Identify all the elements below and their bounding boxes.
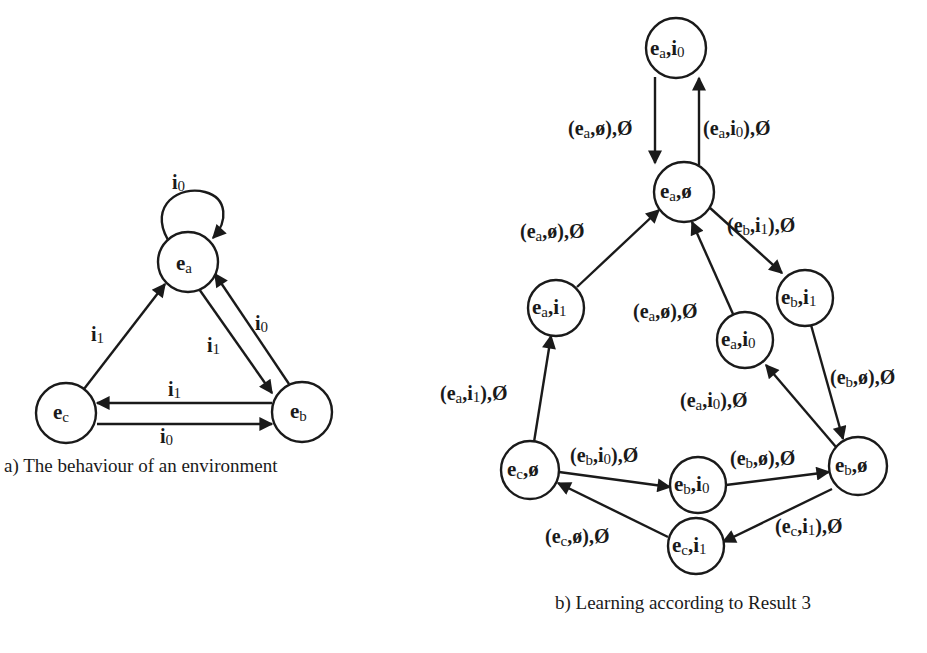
node-ec-i1: ec,i1: [668, 518, 724, 574]
edge-label-12: (ec,ø),Ø: [545, 525, 609, 549]
edge-ecempty-to-ebi0: [559, 472, 670, 487]
edge-eai1-to-eaempty: [577, 210, 659, 287]
edge-ecempty-to-eai1: [534, 336, 551, 442]
edge-label-1: (ea,ø),Ø: [568, 117, 632, 141]
edge-label-10: (eb,ø),Ø: [730, 447, 795, 471]
node-ea-empty: ea,ø: [654, 162, 714, 222]
node-ea-i1: ea,i1: [528, 280, 584, 336]
edge-label-eb-ec: i1: [168, 378, 181, 401]
edge-label-3: (ea,ø),Ø: [520, 220, 584, 244]
edge-label-ec-eb: i0: [160, 425, 173, 448]
edge-label-11: (ec,i1),Ø: [775, 515, 843, 539]
node-ec-empty: ec,ø: [501, 441, 559, 499]
edge-label-eb-ea: i0: [255, 312, 268, 335]
svg-text:eb,ø: eb,ø: [835, 453, 868, 478]
caption-a: a) The behaviour of an environment: [4, 455, 278, 477]
state-diagrams: i0 i1 i1 i0 i1 i0 ea eb ec a) The behavi…: [0, 0, 927, 653]
node-eb-empty: eb,ø: [829, 437, 887, 495]
svg-text:ea,ø: ea,ø: [660, 179, 692, 204]
edge-label-2: (ea,i0),Ø: [703, 117, 771, 141]
node-ec: ec: [36, 383, 96, 443]
edge-label-ea-self: i0: [172, 171, 185, 194]
edge-label-4: (eb,i1),Ø: [727, 214, 795, 238]
edge-label-ea-eb: i1: [207, 334, 220, 357]
edge-label-7: (ea,i0),Ø: [680, 389, 748, 413]
node-eb: eb: [272, 382, 332, 442]
diagram-b-learning: (ea,ø),Ø (ea,i0),Ø (ea,ø),Ø (eb,i1),Ø (e…: [440, 18, 895, 614]
caption-b: b) Learning according to Result 3: [555, 592, 811, 614]
edge-label-6: (eb,ø),Ø: [830, 366, 895, 390]
node-eb-i0: eb,i0: [670, 457, 726, 513]
edge-label-5: (ea,ø),Ø: [633, 300, 697, 324]
edge-label-8: (ea,i1),Ø: [440, 382, 508, 406]
edge-ebi0-to-ebempty: [726, 472, 829, 485]
node-eb-i1: eb,i1: [777, 270, 833, 326]
node-ea: ea: [158, 232, 218, 292]
node-ea-i0-mid: ea,i0: [717, 312, 773, 368]
node-ea-i0-top: ea,i0: [646, 18, 706, 78]
diagram-a-environment-behaviour: i0 i1 i1 i0 i1 i0 ea eb ec a) The behavi…: [4, 171, 332, 477]
svg-text:ec,ø: ec,ø: [507, 457, 539, 482]
edge-label-ec-ea: i1: [91, 323, 104, 346]
edge-label-9: (eb,i0),Ø: [570, 444, 638, 468]
